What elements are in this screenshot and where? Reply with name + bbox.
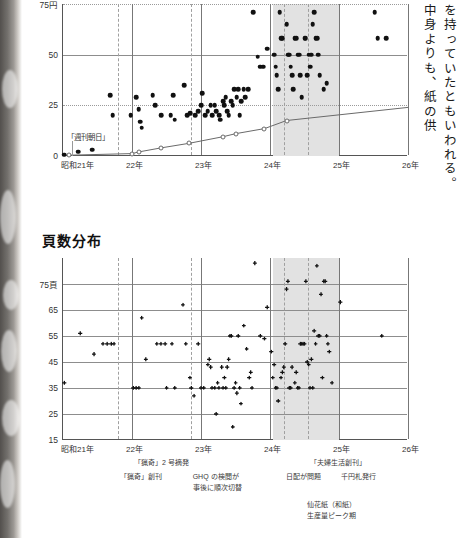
data-point — [232, 386, 236, 390]
gridline-horizontal — [63, 284, 407, 285]
data-point — [105, 342, 109, 346]
chart-page-distribution: 頁数分布 15253545556575頁昭和21年22年23年24年25年26年 — [0, 230, 415, 470]
data-point — [258, 334, 262, 338]
trend-data-point — [130, 151, 135, 156]
data-point — [217, 386, 221, 390]
event-marker-line — [308, 258, 309, 439]
data-point — [235, 391, 239, 395]
data-point — [233, 381, 237, 385]
data-point — [248, 370, 252, 374]
x-axis-tick-label: 26年 — [402, 159, 419, 170]
event-marker-line — [284, 258, 285, 439]
data-point — [181, 303, 185, 307]
annotation-ghq-censorship: GHQ の検閲が 事後に順次切替 — [193, 472, 242, 494]
data-point — [173, 386, 177, 390]
callout-leader-line — [72, 141, 73, 156]
data-point — [253, 261, 257, 265]
data-point — [202, 386, 206, 390]
data-point — [214, 412, 218, 416]
x-axis-tick-label: 26年 — [402, 443, 419, 454]
data-point — [231, 425, 235, 429]
annotation-ryoki-issue2: 「猟奇」2 号摘発 — [134, 458, 189, 469]
data-point — [192, 394, 196, 398]
trend-data-point — [233, 131, 238, 136]
gridline-horizontal — [63, 310, 407, 311]
data-point — [250, 386, 254, 390]
data-point — [380, 334, 384, 338]
data-point — [237, 386, 241, 390]
y-axis-tick-label: 50 — [49, 50, 58, 60]
data-point — [196, 342, 200, 346]
data-point — [208, 365, 212, 369]
gridline-vertical-year — [408, 258, 409, 439]
data-point — [184, 342, 188, 346]
body-text-column-left: 中身よりも、紙の供 — [420, 4, 435, 334]
data-point — [112, 342, 116, 346]
x-axis-tick-label: 25年 — [333, 159, 350, 170]
data-point — [206, 362, 210, 366]
annotation-ryoki-launch: 「猟奇」創刊 — [120, 472, 162, 483]
data-point — [224, 386, 228, 390]
gridline-vertical-year — [339, 258, 340, 439]
y-axis-tick-label: 75円 — [40, 0, 58, 10]
data-point — [222, 375, 226, 379]
x-axis-tick-label: 22年 — [126, 443, 143, 454]
data-point — [226, 357, 230, 361]
y-axis-tick-label: 65 — [49, 305, 58, 315]
gridline-vertical-year — [132, 258, 133, 439]
data-point — [92, 352, 96, 356]
data-point — [137, 386, 141, 390]
trend-data-point — [136, 149, 141, 154]
trend-data-point — [186, 141, 191, 146]
x-axis-tick-label: 24年 — [264, 443, 281, 454]
data-point — [139, 316, 143, 320]
trend-data-point — [262, 126, 267, 131]
x-axis-tick-label: 22年 — [126, 159, 143, 170]
x-axis-tick-label: 25年 — [333, 443, 350, 454]
data-point — [170, 342, 174, 346]
data-point — [163, 342, 167, 346]
gridline-horizontal — [63, 336, 407, 337]
data-point — [242, 323, 246, 327]
chart-title: 頁数分布 — [42, 230, 102, 250]
body-text-column-right: を持っていたともいわれる。 — [440, 4, 455, 304]
gridline-horizontal — [63, 414, 407, 415]
data-point — [159, 342, 163, 346]
data-point — [247, 375, 251, 379]
annotation-fufuseikatsu-launch: 「夫婦生活創刊」 — [310, 458, 366, 469]
x-axis-tick-label: 24年 — [264, 159, 281, 170]
data-point — [155, 342, 159, 346]
data-point — [239, 401, 243, 405]
y-axis-tick-label: 45 — [49, 357, 58, 367]
data-point — [265, 305, 269, 309]
y-axis-tick-label: 55 — [49, 331, 58, 341]
data-point — [262, 336, 266, 340]
gridline-vertical-year — [408, 4, 409, 155]
y-axis-tick-label: 0 — [53, 151, 58, 161]
x-axis-tick-label: 23年 — [195, 443, 212, 454]
annotation-senkashi-peak: 仙花紙（和紙） 生産量ピーク期 — [307, 500, 356, 522]
scanned-page: を持っていたともいわれる。 中身よりも、紙の供 0255075円昭和21年22年… — [0, 0, 459, 538]
data-point — [101, 342, 105, 346]
y-axis-tick-label: 35 — [49, 383, 58, 393]
data-point — [62, 381, 66, 385]
x-axis-tick-label: 昭和21年 — [61, 443, 94, 454]
y-axis-tick-label: 25 — [49, 409, 58, 419]
trend-data-point — [221, 134, 226, 139]
chart-price-distribution: 0255075円昭和21年22年23年24年25年26年 「週刊朝日」 — [0, 0, 415, 175]
data-point — [215, 381, 219, 385]
gridline-vertical-year — [270, 258, 271, 439]
data-point — [164, 386, 168, 390]
data-point — [213, 386, 217, 390]
gridline-vertical-year — [201, 258, 202, 439]
trend-data-point — [284, 118, 289, 123]
data-point — [219, 365, 223, 369]
y-axis-tick-label: 75頁 — [40, 278, 58, 290]
callout-shukan-asahi: 「週刊朝日」 — [67, 131, 109, 142]
trend-data-point — [158, 145, 163, 150]
annotation-nippai-problem: 日配が問題 — [286, 472, 321, 483]
data-point — [207, 357, 211, 361]
trend-data-point — [66, 153, 71, 158]
data-point — [144, 357, 148, 361]
annotation-thousand-yen-note: 千円札発行 — [341, 472, 376, 483]
